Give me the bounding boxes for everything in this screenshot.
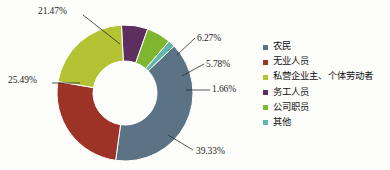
legend-swatch-icon xyxy=(263,120,268,125)
slice-percent-label: 1.66% xyxy=(212,84,236,94)
legend-swatch-icon xyxy=(263,45,268,50)
legend-item[interactable]: 务工人员 xyxy=(263,87,390,99)
legend-item[interactable]: 无业人员 xyxy=(263,56,390,68)
legend-item-label: 无业人员 xyxy=(273,56,309,67)
legend-swatch-icon xyxy=(263,60,268,65)
slice-percent-label: 25.49% xyxy=(8,75,37,85)
slice-percent-label: 6.27% xyxy=(197,33,221,43)
donut-plot-area: 39.33%25.49%21.47%6.27%5.78%1.66% xyxy=(0,0,262,170)
legend-item[interactable]: 公司职员 xyxy=(263,102,390,114)
slice-percent-label: 5.78% xyxy=(206,59,230,69)
legend-item-label: 其他 xyxy=(273,117,291,128)
chart-legend: 农民无业人员私营企业主、个体劳动者务工人员公司职员其他 xyxy=(263,41,390,132)
leader-line xyxy=(177,38,195,55)
legend-item[interactable]: 农民 xyxy=(263,41,390,53)
donut-chart: 39.33%25.49%21.47%6.27%5.78%1.66% 农民无业人员… xyxy=(0,0,390,170)
legend-item-label: 私营企业主、个体劳动者 xyxy=(273,71,373,82)
pie-slice[interactable] xyxy=(58,25,123,88)
slice-percent-label: 21.47% xyxy=(38,6,67,16)
legend-item[interactable]: 私营企业主、个体劳动者 xyxy=(263,71,390,83)
legend-swatch-icon xyxy=(263,75,268,80)
legend-item-label: 公司职员 xyxy=(273,102,309,113)
legend-swatch-icon xyxy=(263,105,268,110)
pie-slice[interactable] xyxy=(57,82,121,161)
legend-item-label: 农民 xyxy=(273,41,291,52)
legend-item[interactable]: 其他 xyxy=(263,117,390,129)
slice-group xyxy=(57,25,193,161)
slice-percent-label: 39.33% xyxy=(196,146,225,156)
legend-swatch-icon xyxy=(263,90,268,95)
legend-item-label: 务工人员 xyxy=(273,87,309,98)
